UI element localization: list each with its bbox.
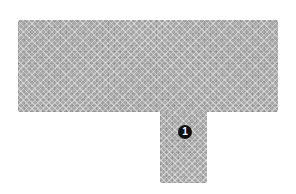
hatched-stem-region: [160, 111, 207, 183]
diagram-canvas: 1: [0, 0, 296, 194]
callout-badge-1: 1: [178, 125, 192, 139]
hatched-top-region: [18, 20, 278, 112]
